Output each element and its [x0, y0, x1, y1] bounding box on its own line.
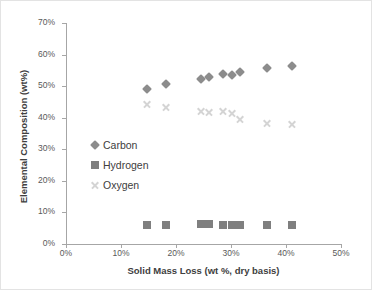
- data-point-x: [162, 102, 171, 111]
- data-point-diamond: [142, 84, 152, 94]
- y-tick: [62, 149, 66, 150]
- legend-label: Hydrogen: [103, 159, 149, 171]
- chart-frame: 0%10%20%30%40%50%60%70% 0%10%20%30%40%50…: [0, 0, 372, 290]
- data-point-square: [288, 221, 296, 229]
- y-tick-label: 0%: [19, 239, 55, 248]
- data-point-square: [219, 221, 227, 229]
- data-point-square: [91, 161, 99, 169]
- scatter-plot: 0%10%20%30%40%50%60%70% 0%10%20%30%40%50…: [1, 1, 372, 290]
- data-point-square: [205, 220, 213, 228]
- y-tick: [62, 181, 66, 182]
- data-point-square: [197, 220, 205, 228]
- chart-legend: CarbonHydrogenOxygen: [87, 135, 149, 195]
- x-tick-label: 10%: [101, 249, 141, 258]
- x-tick-label: 30%: [211, 249, 251, 258]
- data-point-diamond: [204, 72, 214, 82]
- legend-marker-square-icon: [87, 157, 103, 173]
- x-axis-title: Solid Mass Loss (wt %, dry basis): [66, 265, 341, 276]
- legend-marker-diamond-icon: [87, 137, 103, 153]
- y-tick: [62, 23, 66, 24]
- data-point-diamond: [287, 61, 297, 71]
- y-axis-title: Elemental Composition (wt%): [18, 37, 29, 237]
- legend-label: Carbon: [103, 139, 137, 151]
- data-point-diamond: [262, 63, 272, 73]
- x-tick-label: 50%: [321, 249, 361, 258]
- data-point-square: [162, 221, 170, 229]
- data-point-x: [91, 181, 100, 190]
- data-point-diamond: [161, 79, 171, 89]
- legend-marker-x-icon: [87, 177, 103, 193]
- legend-item-oxygen[interactable]: Oxygen: [87, 175, 149, 195]
- data-point-x: [262, 119, 271, 128]
- data-point-square: [143, 221, 151, 229]
- legend-item-hydrogen[interactable]: Hydrogen: [87, 155, 149, 175]
- x-tick-label: 0%: [46, 249, 86, 258]
- y-tick: [62, 86, 66, 87]
- data-point-x: [235, 115, 244, 124]
- data-point-diamond: [90, 140, 100, 150]
- data-point-square: [236, 221, 244, 229]
- data-point-x: [219, 107, 228, 116]
- x-tick-label: 40%: [266, 249, 306, 258]
- x-axis-line: [66, 244, 341, 245]
- y-tick-label: 70%: [19, 18, 55, 27]
- y-tick: [62, 118, 66, 119]
- x-tick-label: 20%: [156, 249, 196, 258]
- data-point-square: [263, 221, 271, 229]
- data-point-x: [287, 120, 296, 129]
- y-tick: [62, 212, 66, 213]
- data-point-x: [143, 99, 152, 108]
- y-tick: [62, 55, 66, 56]
- legend-item-carbon[interactable]: Carbon: [87, 135, 149, 155]
- data-point-x: [205, 108, 214, 117]
- legend-label: Oxygen: [103, 179, 139, 191]
- y-axis-line: [66, 23, 67, 244]
